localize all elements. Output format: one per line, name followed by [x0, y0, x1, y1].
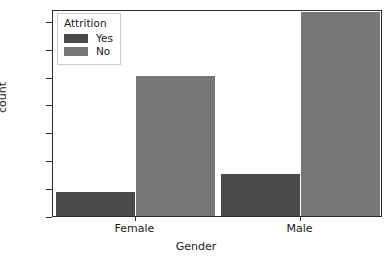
x-tick-label: Male: [255, 222, 345, 235]
bar-male-no: [301, 12, 380, 216]
bar-female-no: [136, 76, 215, 216]
y-axis-label: count: [0, 82, 9, 113]
legend-item-yes: Yes: [64, 33, 113, 45]
legend-label: Yes: [96, 33, 113, 44]
bar-male-yes: [221, 174, 300, 216]
y-tick-mark: [46, 217, 52, 218]
x-tick-mark: [300, 217, 301, 221]
bar-chart-figure: 0100200300400500600700 count FemaleMale …: [0, 0, 392, 261]
x-tick-mark: [135, 217, 136, 221]
legend-entries: YesNo: [64, 33, 113, 58]
legend-swatch-yes: [64, 34, 88, 43]
legend-title: Attrition: [64, 18, 113, 30]
x-tick-label: Female: [90, 222, 180, 235]
legend-label: No: [96, 46, 110, 57]
legend: Attrition YesNo: [57, 13, 121, 65]
legend-item-no: No: [64, 46, 113, 58]
legend-swatch-no: [64, 47, 88, 56]
x-axis-label: Gender: [0, 240, 392, 253]
bar-female-yes: [56, 192, 135, 216]
